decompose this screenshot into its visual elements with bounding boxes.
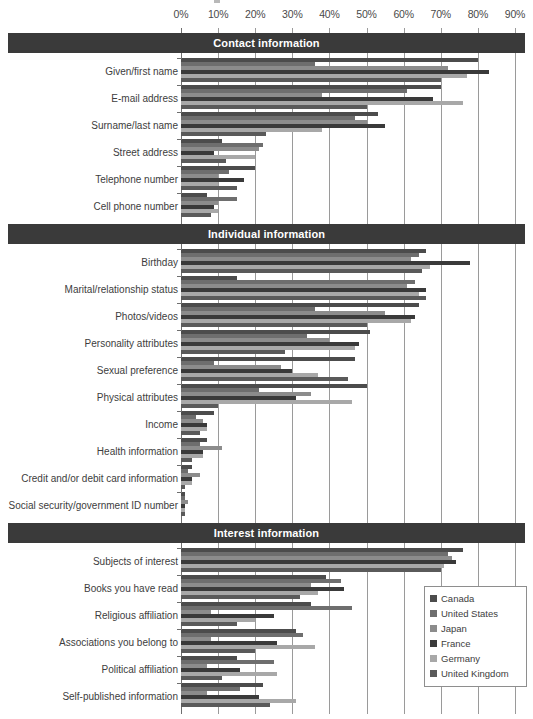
y-axis-tick [177, 276, 182, 277]
y-axis-tick [177, 58, 182, 59]
bar-united-kingdom [181, 186, 237, 190]
legend-label: Germany [441, 653, 480, 664]
y-axis-tick [177, 683, 182, 684]
section-title: Interest information [214, 527, 319, 539]
y-axis-tick [177, 85, 182, 86]
legend-item-united-states[interactable]: United States [430, 606, 521, 621]
legend-label: United Kingdom [441, 668, 509, 679]
category-label: Sexual preference [0, 366, 178, 376]
legend-swatch-icon [430, 595, 437, 602]
bar-group: Personality attributes [0, 330, 533, 357]
bar-group: Birthday [0, 249, 533, 276]
bar-group: Telephone number [0, 166, 533, 193]
bar-united-kingdom [181, 78, 441, 82]
category-label: Cell phone number [0, 202, 178, 212]
y-axis-tick [177, 438, 182, 439]
bar-united-kingdom [181, 676, 222, 680]
bar-united-kingdom [181, 377, 348, 381]
y-axis-tick [177, 330, 182, 331]
y-axis-tick [177, 303, 182, 304]
bar-group: Street address [0, 139, 533, 166]
category-label: Subjects of interest [0, 557, 178, 567]
bar-united-kingdom [181, 622, 237, 626]
bar-group: Cell phone number [0, 193, 533, 220]
y-axis-tick [177, 602, 182, 603]
y-axis-tick [177, 112, 182, 113]
bar-group: Self-published information [0, 683, 533, 710]
chart-legend: CanadaUnited StatesJapanFranceGermanyUni… [424, 586, 527, 687]
category-label: Health information [0, 447, 178, 457]
category-label: Personality attributes [0, 339, 178, 349]
category-label: Street address [0, 148, 178, 158]
section-header-1: Contact information [8, 33, 525, 53]
y-axis-tick [177, 166, 182, 167]
y-axis-tick [177, 465, 182, 466]
bar-united-kingdom [181, 269, 422, 273]
bar-united-kingdom [181, 458, 192, 462]
category-label: Given/first name [0, 67, 178, 77]
bar-united-kingdom [181, 350, 285, 354]
category-label: Telephone number [0, 175, 178, 185]
bar-group: E-mail address [0, 85, 533, 112]
bar-united-kingdom [181, 404, 218, 408]
bar-united-kingdom [181, 159, 226, 163]
bar-group: Surname/last name [0, 112, 533, 139]
bar-united-kingdom [181, 132, 266, 136]
bar-united-kingdom [181, 485, 185, 489]
y-axis-tick [177, 411, 182, 412]
x-axis-tick-80: 80% [468, 8, 488, 20]
category-label: Income [0, 420, 178, 430]
legend-swatch-icon [430, 640, 437, 647]
category-label: Birthday [0, 258, 178, 268]
legend-item-germany[interactable]: Germany [430, 651, 521, 666]
bar-group: Health information [0, 438, 533, 465]
y-axis-tick [177, 548, 182, 549]
category-label: Self-published information [0, 692, 178, 702]
bar-group: Income [0, 411, 533, 438]
legend-swatch-icon [430, 610, 437, 617]
category-label: E-mail address [0, 94, 178, 104]
bar-group: Physical attributes [0, 384, 533, 411]
legend-label: Canada [441, 593, 474, 604]
x-axis-tick-40: 40% [319, 8, 339, 20]
x-axis-tick-70: 70% [431, 8, 451, 20]
x-axis-tick-20: 20% [245, 8, 265, 20]
legend-item-canada[interactable]: Canada [430, 591, 521, 606]
legend-item-japan[interactable]: Japan [430, 621, 521, 636]
legend-item-france[interactable]: France [430, 636, 521, 651]
bar-united-kingdom [181, 105, 367, 109]
x-axis-tick-0: 0% [174, 8, 189, 20]
category-label: Social security/government ID number [0, 501, 178, 511]
category-label: Religious affiliation [0, 611, 178, 621]
section-title: Individual information [208, 228, 325, 240]
bar-group: Given/first name [0, 58, 533, 85]
y-axis-tick [177, 139, 182, 140]
category-label: Credit and/or debit card information [0, 474, 178, 484]
category-label: Surname/last name [0, 121, 178, 131]
y-axis-tick [177, 656, 182, 657]
bar-united-kingdom [181, 323, 367, 327]
bar-group: Social security/government ID number [0, 492, 533, 519]
legend-swatch-icon [430, 655, 437, 662]
bar-united-kingdom [181, 649, 255, 653]
category-label: Associations you belong to [0, 638, 178, 648]
bar-united-kingdom [181, 296, 426, 300]
y-axis-tick [177, 575, 182, 576]
x-axis-tick-60: 60% [393, 8, 413, 20]
bar-united-kingdom [181, 568, 441, 572]
y-axis-tick [177, 193, 182, 194]
bar-united-kingdom [181, 512, 185, 516]
category-label: Books you have read [0, 584, 178, 594]
bar-group: Photos/videos [0, 303, 533, 330]
legend-swatch-icon [430, 670, 437, 677]
section-header-3: Interest information [8, 523, 525, 543]
y-axis-tick [177, 249, 182, 250]
x-axis-tick-10: 10% [208, 8, 228, 20]
category-label: Physical attributes [0, 393, 178, 403]
legend-item-united-kingdom[interactable]: United Kingdom [430, 666, 521, 681]
category-label: Marital/relationship status [0, 285, 178, 295]
x-axis-tick-30: 30% [282, 8, 302, 20]
x-axis-tick-90: 90% [505, 8, 525, 20]
y-axis-tick [177, 357, 182, 358]
bar-united-kingdom [181, 703, 270, 707]
